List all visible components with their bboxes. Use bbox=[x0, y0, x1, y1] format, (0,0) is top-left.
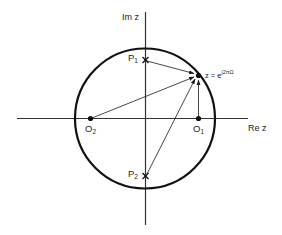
pole-p1-label: P1 bbox=[128, 53, 138, 65]
zero-o1-marker bbox=[196, 116, 201, 121]
zero-o2-label: O2 bbox=[85, 124, 96, 136]
z-point-marker bbox=[196, 73, 201, 78]
zero-o2-marker bbox=[88, 116, 93, 121]
zero-o1-label: O1 bbox=[193, 124, 204, 136]
pole-zero-diagram bbox=[0, 0, 282, 235]
imaginary-axis-label: Im z bbox=[122, 13, 139, 22]
z-point-label: z = ej2πΩ bbox=[205, 70, 234, 80]
real-axis-label: Re z bbox=[248, 124, 267, 133]
pole-p2-label: P2 bbox=[128, 169, 138, 181]
